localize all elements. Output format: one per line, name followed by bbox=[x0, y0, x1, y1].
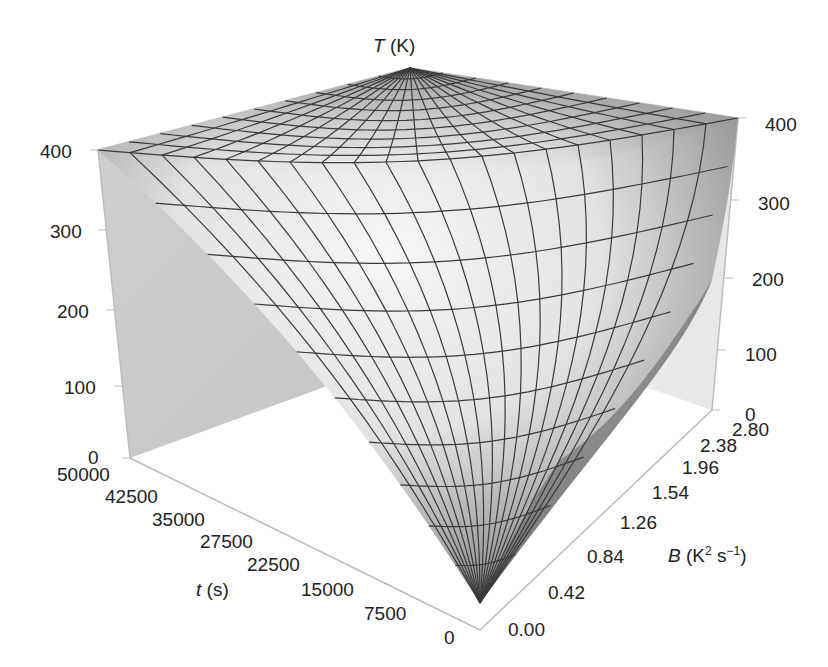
B-tick-0.42: 0.42 bbox=[548, 583, 585, 602]
t-tick-35000: 35000 bbox=[152, 510, 205, 529]
B-tick-0.84: 0.84 bbox=[587, 547, 624, 566]
t-tick-50000: 50000 bbox=[57, 465, 110, 484]
z-tick-right-300: 300 bbox=[758, 194, 790, 213]
z-tick-left-100: 100 bbox=[64, 378, 96, 397]
t-tick-15000: 15000 bbox=[301, 580, 354, 599]
t-tick-27500: 27500 bbox=[200, 532, 253, 551]
B-axis-title: B (K2 s−1) bbox=[668, 545, 746, 565]
t-tick-7500: 7500 bbox=[364, 604, 406, 623]
t-tick-22500: 22500 bbox=[247, 555, 300, 574]
z-axis-title: T (K) bbox=[373, 36, 415, 55]
B-tick-1.54: 1.54 bbox=[652, 483, 689, 502]
t-axis-title: t (s) bbox=[196, 580, 229, 599]
z-tick-right-200: 200 bbox=[752, 270, 784, 289]
t-tick-42500: 42500 bbox=[105, 487, 158, 506]
B-tick-0.00: 0.00 bbox=[508, 620, 545, 639]
z-tick-left-200: 200 bbox=[57, 302, 89, 321]
z-tick-left-400: 400 bbox=[40, 142, 72, 161]
z-tick-right-400: 400 bbox=[765, 115, 797, 134]
z-tick-right-100: 100 bbox=[745, 345, 777, 364]
t-tick-0: 0 bbox=[444, 628, 455, 647]
B-tick-2.80: 2.80 bbox=[732, 420, 769, 439]
B-tick-1.96: 1.96 bbox=[682, 458, 719, 477]
surface-plot bbox=[0, 0, 828, 667]
B-tick-1.26: 1.26 bbox=[620, 513, 657, 532]
z-tick-left-300: 300 bbox=[50, 222, 82, 241]
